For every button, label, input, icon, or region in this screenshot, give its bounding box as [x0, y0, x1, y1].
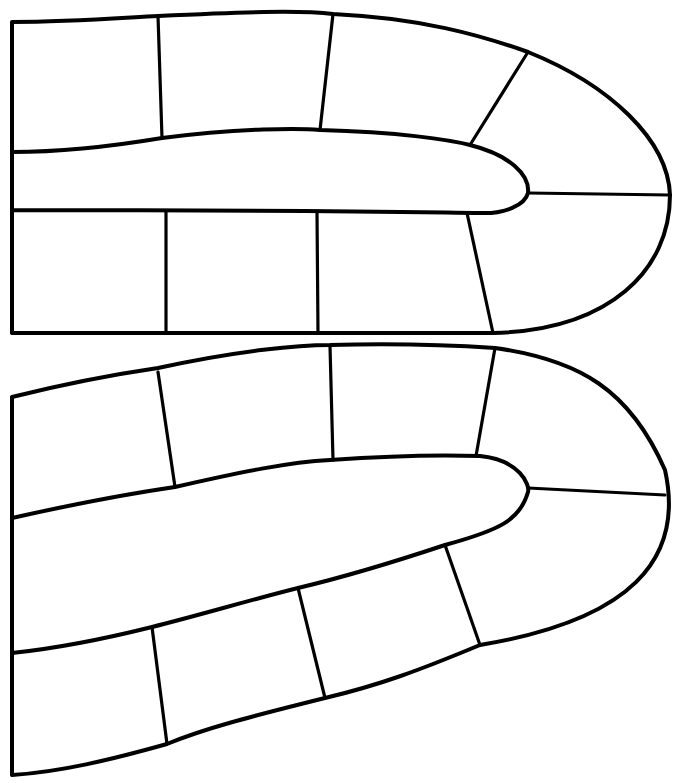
lower-track — [12, 344, 669, 775]
square-divider — [317, 212, 318, 333]
square-divider — [528, 193, 670, 195]
upper-track — [12, 12, 670, 333]
lower-track-outer-outline — [12, 344, 669, 775]
game-board — [0, 0, 683, 783]
upper-track-outline — [12, 12, 670, 333]
